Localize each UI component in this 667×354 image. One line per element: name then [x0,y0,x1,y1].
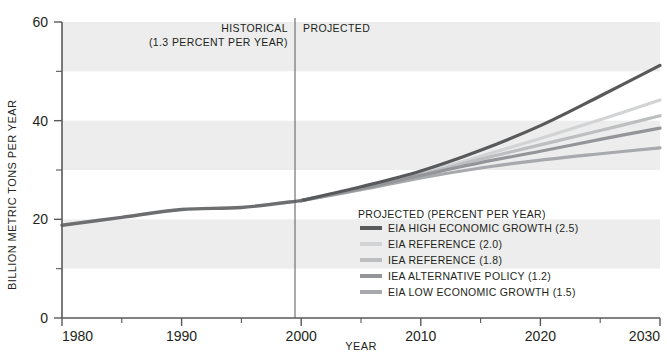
x-tick-label: 2030 [629,328,660,344]
y-tick-label: 0 [40,310,48,326]
x-tick-label: 2010 [405,328,436,344]
y-tick-label: 40 [32,113,48,129]
legend-item-label: EIA LOW ECONOMIC GROWTH (1.5) [388,286,576,298]
x-tick-label: 2000 [286,328,317,344]
y-tick-label: 20 [32,211,48,227]
emissions-line-chart: 0204060 198019902000201020202030 BILLION… [0,0,667,354]
x-tick-label: 1980 [62,328,93,344]
historical-annotation-line2: (1.3 PERCENT PER YEAR) [149,36,288,48]
legend-item-label: EIA REFERENCE (2.0) [388,238,502,250]
x-tick-label: 2020 [525,328,556,344]
projected-annotation: PROJECTED [303,22,370,34]
x-tick-label: 1990 [166,328,197,344]
legend-item-label: IEA REFERENCE (1.8) [388,254,502,266]
y-axis-ticks: 0204060 [32,14,62,326]
legend-item-label: IEA ALTERNATIVE POLICY (1.2) [388,270,551,282]
y-tick-label: 60 [32,14,48,30]
y-axis-title: BILLION METRIC TONS PER YEAR [6,100,18,290]
x-axis-title: YEAR [345,340,377,352]
chart-container: 0204060 198019902000201020202030 BILLION… [0,0,667,354]
historical-annotation-line1: HISTORICAL [221,22,288,34]
legend-item-label: EIA HIGH ECONOMIC GROWTH (2.5) [388,222,578,234]
legend-title: PROJECTED (PERCENT PER YEAR) [358,208,546,220]
